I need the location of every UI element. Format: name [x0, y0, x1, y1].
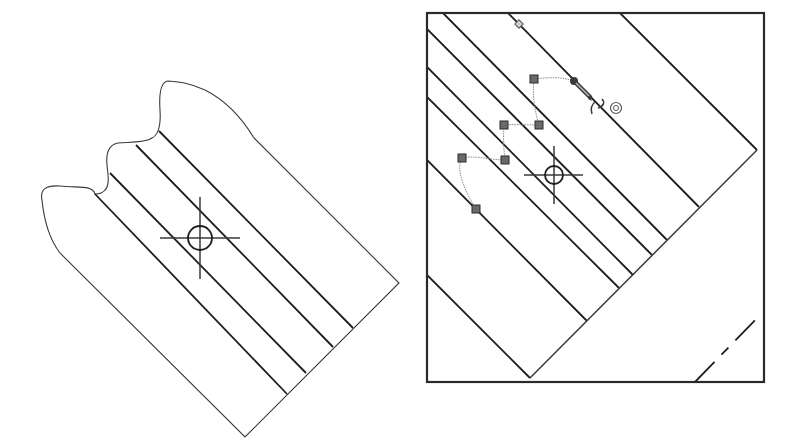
drawing-canvas	[0, 0, 803, 442]
spline-curve	[460, 78, 574, 209]
edge-line-3	[427, 29, 652, 255]
crosshair-icon	[160, 197, 240, 279]
right-panel	[427, 13, 764, 382]
hatch-line-2	[110, 173, 306, 373]
pencil-icon	[575, 82, 604, 114]
crosshair-icon	[524, 146, 583, 204]
hatch-line-3	[136, 145, 333, 347]
tooth-outline	[42, 81, 399, 437]
spline-handle[interactable]	[472, 205, 480, 213]
edge-line-4	[427, 67, 633, 275]
spline-handle[interactable]	[535, 121, 543, 129]
outer-edge-top	[620, 13, 757, 150]
edge-line-7	[427, 275, 530, 378]
spline-handles	[458, 75, 543, 213]
spline-handle[interactable]	[500, 121, 508, 129]
spline-handle[interactable]	[458, 154, 466, 162]
spline-handle[interactable]	[530, 75, 538, 83]
outer-edge-diagonal	[530, 150, 757, 378]
hatch-line-4	[159, 131, 353, 328]
target-snap-icon	[611, 103, 622, 114]
left-panel	[42, 81, 399, 437]
edge-line-6	[427, 160, 587, 321]
dashed-edge	[695, 315, 760, 382]
hatch-line-1	[95, 194, 287, 394]
spline-handle[interactable]	[501, 156, 509, 164]
